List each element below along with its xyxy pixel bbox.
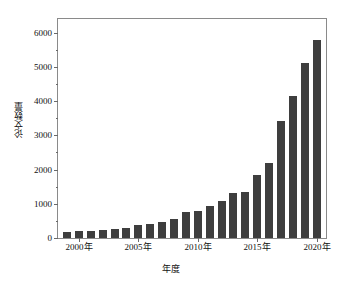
plot-area: 01000200030004000500060002000年2005年2010年… [57,18,327,239]
bar [146,224,154,238]
bar [313,40,321,238]
bar [158,222,166,238]
bar [75,231,83,238]
bar [99,230,107,238]
y-axis-tick [54,33,58,34]
y-axis-tick-label: 3000 [34,131,52,140]
bar [265,163,273,238]
bar [170,219,178,238]
bar [134,225,142,238]
y-axis-tick [54,101,58,102]
bar [241,192,249,238]
y-axis-minor-tick [56,152,59,153]
x-axis-tick-label: 2000年 [66,243,93,252]
y-axis-minor-tick [56,118,59,119]
y-axis-tick [54,67,58,68]
y-axis-minor-tick [56,84,59,85]
x-axis-tick-label: 2005年 [125,243,152,252]
bar [87,231,95,238]
y-axis-tick-label: 6000 [34,28,52,37]
bar [289,96,297,238]
bar [111,229,119,238]
bar [206,206,214,239]
bar [63,232,71,238]
y-axis-tick-label: 5000 [34,62,52,71]
bar [301,63,309,238]
y-axis-tick-label: 1000 [34,199,52,208]
y-axis-tick [54,238,58,239]
y-axis-title: 论文数量 [8,0,28,239]
bar-series [58,19,326,238]
bar [122,228,130,238]
x-axis-title: 年度 [0,262,341,275]
bar [194,211,202,238]
y-axis-tick-label: 4000 [34,97,52,106]
x-axis-tick-label: 2020年 [304,243,331,252]
y-axis-minor-tick [56,50,59,51]
y-axis-title-text: 论文数量 [14,102,23,138]
y-axis-tick [54,204,58,205]
y-axis-tick [54,170,58,171]
bar [277,121,285,238]
bar-chart-figure: 论文数量 01000200030004000500060002000年2005年… [0,0,341,290]
y-axis-tick-label: 0 [48,234,53,243]
y-axis-tick-label: 2000 [34,165,52,174]
y-axis-tick [54,135,58,136]
bar [229,193,237,239]
bar [218,201,226,238]
x-axis-tick-label: 2010年 [185,243,212,252]
x-axis-tick-label: 2015年 [244,243,271,252]
y-axis-minor-tick [56,221,59,222]
bar [253,175,261,238]
bar [182,212,190,238]
y-axis-minor-tick [56,187,59,188]
